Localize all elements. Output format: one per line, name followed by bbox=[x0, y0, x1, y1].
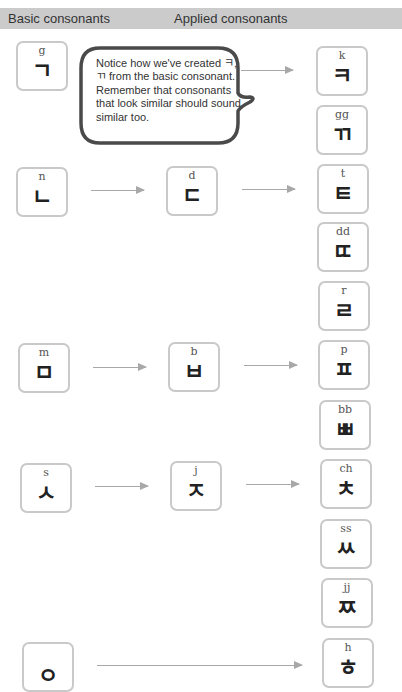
tile-applied-gg: gg ㄲ bbox=[316, 105, 368, 155]
jamo: ㅅ bbox=[22, 479, 70, 507]
jamo: ㅆ bbox=[322, 535, 370, 563]
romanization: d bbox=[168, 170, 216, 182]
romanization: b bbox=[170, 346, 218, 358]
romanization: m bbox=[20, 347, 68, 359]
romanization: jj bbox=[323, 582, 371, 594]
jamo: ㅍ bbox=[320, 356, 368, 384]
tile-applied-j: j ㅈ bbox=[170, 461, 222, 511]
jamo: ㄸ bbox=[319, 238, 367, 266]
tile-applied-dd: dd ㄸ bbox=[317, 222, 369, 272]
romanization: ch bbox=[322, 463, 370, 475]
romanization: r bbox=[320, 285, 368, 297]
tile-applied-d: d ㄷ bbox=[166, 166, 218, 216]
column-header-bar: Basic consonants Applied consonants bbox=[0, 8, 402, 29]
tile-applied-t: t ㅌ bbox=[317, 164, 369, 214]
tile-applied-jj: jj ㅉ bbox=[321, 578, 373, 628]
romanization: ss bbox=[322, 523, 370, 535]
tile-applied-h: h ㅎ bbox=[322, 638, 374, 688]
jamo: ㅃ bbox=[321, 416, 369, 444]
basic-consonants-heading: Basic consonants bbox=[8, 11, 110, 26]
jamo: ㄷ bbox=[168, 182, 216, 210]
romanization: j bbox=[172, 465, 220, 477]
tile-basic-g: g ㄱ bbox=[16, 41, 68, 91]
romanization: gg bbox=[318, 109, 366, 121]
romanization: h bbox=[324, 642, 372, 654]
romanization: p bbox=[320, 344, 368, 356]
tile-basic-ng: ㅇ bbox=[22, 642, 74, 692]
arrow-right-icon bbox=[244, 365, 297, 366]
arrow-right-icon bbox=[95, 486, 148, 487]
callout-speech-bubble: Notice how we've created ㅋ, ㄲ from the b… bbox=[78, 45, 242, 143]
arrow-right-icon bbox=[97, 665, 302, 666]
jamo: ㄲ bbox=[318, 121, 366, 149]
arrow-right-icon bbox=[246, 484, 299, 485]
jamo: ㅉ bbox=[323, 594, 371, 622]
arrow-right-icon bbox=[93, 367, 146, 368]
tile-applied-k: k ㅋ bbox=[316, 46, 368, 96]
tile-applied-ch: ch ㅊ bbox=[320, 459, 372, 509]
jamo: ㅊ bbox=[322, 475, 370, 503]
romanization: n bbox=[18, 171, 66, 183]
romanization: bb bbox=[321, 404, 369, 416]
jamo: ㄴ bbox=[18, 183, 66, 211]
jamo: ㅁ bbox=[20, 359, 68, 387]
tile-applied-r: r ㄹ bbox=[318, 281, 370, 331]
jamo: ㅇ bbox=[24, 662, 72, 690]
tile-basic-s: s ㅅ bbox=[20, 463, 72, 513]
romanization: s bbox=[22, 467, 70, 479]
romanization: t bbox=[319, 168, 367, 180]
tile-applied-b: b ㅂ bbox=[168, 342, 220, 392]
jamo: ㅈ bbox=[172, 477, 220, 505]
jamo: ㅌ bbox=[319, 180, 367, 208]
callout-text: Notice how we've created ㅋ, ㄲ from the b… bbox=[96, 57, 246, 124]
romanization: dd bbox=[319, 226, 367, 238]
jamo: ㄱ bbox=[18, 57, 66, 85]
romanization: g bbox=[18, 45, 66, 57]
arrow-right-icon bbox=[91, 190, 144, 191]
tile-basic-n: n ㄴ bbox=[16, 167, 68, 217]
applied-consonants-heading: Applied consonants bbox=[174, 11, 287, 26]
tile-applied-bb: bb ㅃ bbox=[319, 400, 371, 450]
jamo: ㅂ bbox=[170, 358, 218, 386]
jamo: ㅋ bbox=[318, 62, 366, 90]
tile-applied-ss: ss ㅆ bbox=[320, 519, 372, 569]
jamo: ㅎ bbox=[324, 654, 372, 682]
arrow-right-icon bbox=[242, 189, 295, 190]
romanization: k bbox=[318, 50, 366, 62]
tile-basic-m: m ㅁ bbox=[18, 343, 70, 393]
jamo: ㄹ bbox=[320, 297, 368, 325]
tile-applied-p: p ㅍ bbox=[318, 340, 370, 390]
